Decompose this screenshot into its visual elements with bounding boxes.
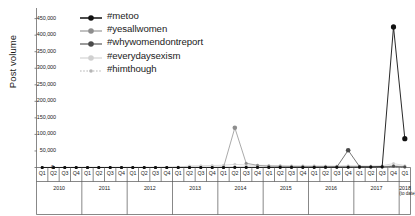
x-year-label: 2015 <box>263 185 308 191</box>
x-axis-labels: Q1Q2Q3Q4Q1Q2Q3Q4Q1Q2Q3Q4Q1Q2Q3Q4Q1Q2Q3Q4… <box>0 0 415 216</box>
x-year-label-text: 2018 <box>399 185 410 191</box>
x-year-label: 2014 <box>218 185 263 191</box>
x-quarter-label: Q3 <box>241 171 252 177</box>
x-quarter-label: Q4 <box>207 171 218 177</box>
x-year-label: 2013 <box>173 185 218 191</box>
x-quarter-label: Q2 <box>139 171 150 177</box>
x-quarter-label: Q4 <box>252 171 263 177</box>
x-quarter-label: Q2 <box>93 171 104 177</box>
x-year-label-text: 2011 <box>82 185 127 191</box>
x-quarter-label: Q1 <box>354 171 365 177</box>
x-year-label-text: 2014 <box>218 185 263 191</box>
x-year-label-text: 2012 <box>127 185 172 191</box>
x-quarter-label: Q4 <box>388 171 399 177</box>
x-quarter-label: Q1 <box>37 171 48 177</box>
x-quarter-label: Q2 <box>320 171 331 177</box>
x-quarter-label: Q3 <box>59 171 70 177</box>
x-quarter-label: Q3 <box>331 171 342 177</box>
x-quarter-label: Q4 <box>161 171 172 177</box>
x-year-label-sub: (to date) <box>399 191 410 196</box>
x-quarter-label: Q4 <box>116 171 127 177</box>
x-quarter-label: Q4 <box>343 171 354 177</box>
x-quarter-label: Q2 <box>365 171 376 177</box>
x-year-label: 2018(to date) <box>399 185 410 196</box>
x-quarter-label: Q2 <box>229 171 240 177</box>
x-quarter-label: Q1 <box>127 171 138 177</box>
x-year-label: 2012 <box>127 185 172 191</box>
x-year-label-text: 2017 <box>354 185 399 191</box>
x-quarter-label: Q1 <box>309 171 320 177</box>
x-quarter-label: Q2 <box>48 171 59 177</box>
x-year-label: 2017 <box>354 185 399 191</box>
x-quarter-label: Q2 <box>184 171 195 177</box>
x-quarter-label: Q3 <box>105 171 116 177</box>
x-quarter-label: Q1 <box>263 171 274 177</box>
x-year-label-text: 2010 <box>37 185 82 191</box>
x-year-label: 2016 <box>309 185 354 191</box>
x-quarter-label: Q2 <box>275 171 286 177</box>
x-quarter-label: Q4 <box>297 171 308 177</box>
x-year-label-text: 2013 <box>173 185 218 191</box>
x-quarter-label: Q1 <box>218 171 229 177</box>
x-year-label: 2011 <box>82 185 127 191</box>
x-quarter-label: Q1 <box>82 171 93 177</box>
x-year-label-text: 2015 <box>263 185 308 191</box>
x-year-label: 2010 <box>37 185 82 191</box>
x-quarter-label: Q3 <box>377 171 388 177</box>
x-quarter-label: Q3 <box>150 171 161 177</box>
x-quarter-label: Q1 <box>399 171 410 177</box>
x-quarter-label: Q1 <box>173 171 184 177</box>
x-quarter-label: Q4 <box>71 171 82 177</box>
x-year-label-text: 2016 <box>309 185 354 191</box>
x-quarter-label: Q3 <box>286 171 297 177</box>
x-quarter-label: Q3 <box>195 171 206 177</box>
post-volume-line-chart: Post volume 050,000100,000150,000200,000… <box>0 0 415 216</box>
